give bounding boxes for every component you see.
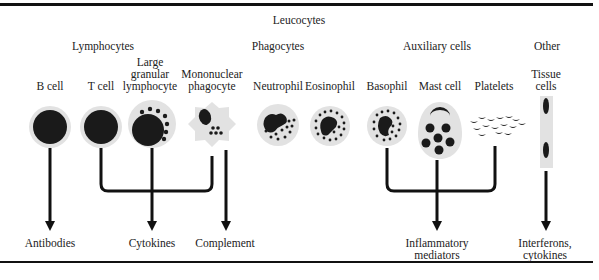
product-label-interferons-cytokines: Interferons, cytokines [518,237,571,261]
eosinophil-icon [310,106,350,146]
platelets-icon [470,116,526,136]
large-granular-lymphocyte-icon [128,100,176,148]
tissue-cells-icon [540,96,553,168]
product-label-antibodies: Antibodies [25,237,75,249]
b-cell-icon [29,106,71,148]
product-label-complement: Complement [195,237,254,249]
cytokines-bracket [101,148,212,191]
basophil-icon [367,106,407,146]
t-cell-icon [80,106,122,148]
mast-cell-icon [418,102,462,159]
mononuclear-phagocyte-icon [188,102,236,147]
product-label-cytokines: Cytokines [129,237,176,249]
neutrophil-icon [257,104,299,146]
leucocyte-diagram [0,0,599,280]
product-label-inflammatory-mediators: Inflammatory mediators [405,237,468,261]
